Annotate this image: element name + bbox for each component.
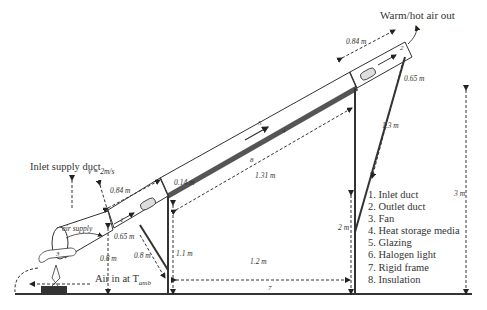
air-in-subscript: amb bbox=[139, 279, 151, 287]
fan-base bbox=[41, 286, 67, 295]
legend-item: 4. Heat storage media bbox=[368, 225, 460, 237]
legend-item: 1. Inlet duct bbox=[368, 189, 460, 201]
dim-rear-leg: 1.3 m bbox=[382, 121, 399, 130]
dim-outlet-dia: 0.65 m bbox=[404, 74, 425, 83]
legend-item: 3. Fan bbox=[368, 213, 460, 225]
dim-front-leg: 1.1 m bbox=[176, 249, 193, 258]
legend-item: 7. Rigid frame bbox=[368, 262, 460, 274]
dim-inlet-len: 0.84 m bbox=[110, 186, 131, 195]
legend-item: 6. Halogen light bbox=[368, 249, 460, 261]
legend-item: 8. Insulation bbox=[368, 274, 460, 286]
dim-base-span: 1.2 m bbox=[250, 257, 267, 266]
legend-item: 2. Outlet duct bbox=[368, 201, 460, 213]
part-num-glazing: 5 bbox=[258, 119, 262, 127]
dim-brace: 0.8 m bbox=[134, 251, 151, 260]
air-in-text: Air in at T bbox=[95, 273, 139, 284]
dim-fan-height: 0.8 m bbox=[100, 254, 117, 263]
air-supply-label: air supply bbox=[62, 224, 93, 233]
part-num-storage: 4 bbox=[282, 127, 286, 135]
dim-outlet-len: 0.84 m bbox=[346, 37, 367, 46]
dim-rear-height: 2 m bbox=[338, 223, 350, 232]
dim-collector-len: 1.31 m bbox=[255, 171, 276, 180]
dim-collector-thk: 0.14 m bbox=[174, 178, 195, 187]
part-num-inlet: 1 bbox=[120, 216, 124, 224]
part-num-outlet: 2 bbox=[400, 44, 404, 52]
part-num-insulation: 8 bbox=[250, 156, 254, 164]
part-num-frame: 7 bbox=[268, 284, 272, 292]
parts-legend: 1. Inlet duct 2. Outlet duct 3. Fan 4. H… bbox=[368, 189, 460, 286]
dim-inlet-dia: 0.65 m bbox=[114, 232, 135, 241]
inlet-label: Inlet supply duct bbox=[30, 161, 101, 172]
air-in-label: Air in at Tamb bbox=[95, 273, 151, 287]
outlet-label: Warm/hot air out bbox=[380, 9, 455, 21]
legend-item: 5. Glazing bbox=[368, 237, 460, 249]
part-num-fan: 3 bbox=[55, 250, 60, 258]
